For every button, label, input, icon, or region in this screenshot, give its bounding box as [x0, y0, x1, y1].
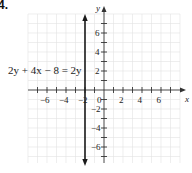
y-tick-label: −6: [91, 142, 101, 152]
x-axis-arrow-icon: [180, 88, 186, 93]
x-tick-label: −4: [59, 95, 69, 105]
x-tick-label: −2: [78, 95, 88, 105]
y-axis-arrow-icon: [102, 6, 107, 12]
line-arrow-down-icon: [82, 159, 87, 166]
y-axis-label: y: [95, 3, 100, 13]
y-tick-label: 2: [95, 66, 100, 76]
x-tick-label: −6: [40, 95, 50, 105]
x-tick-label: 6: [157, 95, 162, 105]
x-tick-label: 2: [119, 95, 124, 105]
equation-label: 2y + 4x − 8 = 2y: [8, 64, 82, 76]
coordinate-plane: y x −6 −4 −2 2 4 6 0 6 4 2 −2 −4 −6: [0, 0, 192, 173]
y-tick-label: 4: [95, 47, 100, 57]
y-tick-label: 6: [95, 28, 100, 38]
x-axis-label: x: [184, 94, 189, 104]
y-tick-label: −2: [91, 104, 101, 114]
line-arrow-up-icon: [82, 14, 87, 21]
y-axis: [101, 6, 107, 163]
y-tick-label: −4: [91, 123, 101, 133]
x-tick-label: 4: [138, 95, 143, 105]
x-axis: [28, 87, 186, 93]
